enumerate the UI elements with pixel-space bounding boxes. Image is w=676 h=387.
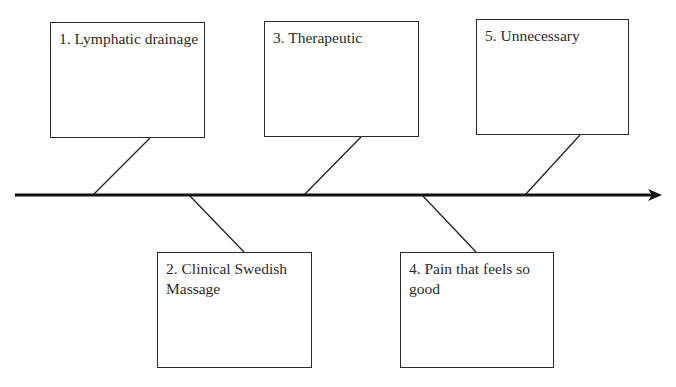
category-box-4: 4. Pain that feels so good	[400, 252, 554, 368]
category-box-1: 1. Lymphatic drainage	[50, 22, 205, 138]
category-box-5: 5. Unnecessary	[476, 19, 629, 135]
category-label-5: 5. Unnecessary	[485, 26, 628, 46]
category-label-3: 3. Therapeutic	[273, 28, 418, 48]
category-label-4: 4. Pain that feels so good	[409, 259, 553, 299]
category-label-1: 1. Lymphatic drainage	[59, 29, 204, 49]
connector-line-3	[304, 137, 361, 195]
category-label-2: 2. Clinical Swedish Massage	[166, 259, 311, 299]
connector-line-5	[525, 135, 580, 195]
category-box-2: 2. Clinical Swedish Massage	[157, 252, 312, 368]
category-box-3: 3. Therapeutic	[264, 21, 419, 137]
connector-line-1	[93, 138, 150, 195]
fishbone-diagram: 1. Lymphatic drainage 2. Clinical Swedis…	[0, 0, 676, 387]
connector-line-2	[189, 195, 244, 252]
connector-line-4	[422, 195, 476, 252]
